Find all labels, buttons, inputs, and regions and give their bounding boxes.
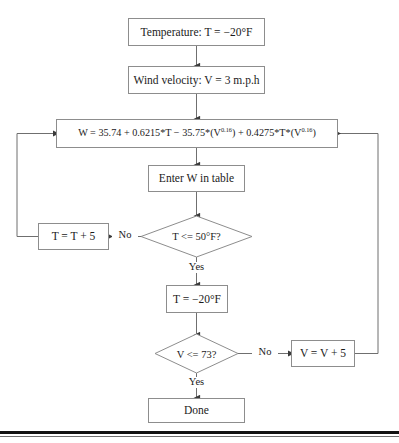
edge-increment-v-feedback xyxy=(338,134,378,354)
edge-label-temp-yes: Yes xyxy=(183,262,210,273)
page-rule-thick xyxy=(0,431,399,434)
node-increment-v[interactable]: V = V + 5 xyxy=(291,340,355,367)
edge-label-velocity-yes: Yes xyxy=(183,377,210,388)
formula-exponent-1: 0.16 xyxy=(221,126,232,133)
node-wind-velocity[interactable]: Wind velocity: V = 3 m.p.h xyxy=(128,66,265,94)
formula-middle: ) + 0.4275*T*(V xyxy=(232,127,301,138)
formula-suffix: ) xyxy=(312,127,315,138)
node-velocity-decision-label: V <= 73? xyxy=(177,349,217,360)
node-formula-label: W = 35.74 + 0.6215*T − 35.75*(V0.16) + 0… xyxy=(78,128,316,139)
node-increment-v-label: V = V + 5 xyxy=(300,347,346,359)
node-increment-t[interactable]: T = T + 5 xyxy=(38,223,109,250)
node-temp-decision-label: T <= 50°F? xyxy=(172,231,221,242)
node-reset-t[interactable]: T = −20°F xyxy=(166,285,228,313)
edge-label-temp-no: No xyxy=(112,230,138,241)
node-done[interactable]: Done xyxy=(148,398,245,423)
edge-increment-t-feedback xyxy=(17,134,56,237)
formula-prefix: W = 35.74 + 0.6215*T − 35.75*(V xyxy=(78,127,221,138)
page-rule-thin xyxy=(0,436,399,437)
flowchart-canvas: Temperature: T = −20°F Wind velocity: V … xyxy=(0,0,399,443)
node-velocity-decision[interactable]: V <= 73? xyxy=(161,344,232,364)
node-enter-table[interactable]: Enter W in table xyxy=(148,165,245,192)
node-done-label: Done xyxy=(184,404,209,416)
edge-label-velocity-no: No xyxy=(252,347,278,358)
node-formula[interactable]: W = 35.74 + 0.6215*T − 35.75*(V0.16) + 0… xyxy=(56,119,338,148)
node-temperature-label: Temperature: T = −20°F xyxy=(141,26,253,38)
formula-exponent-2: 0.16 xyxy=(301,126,312,133)
node-enter-table-label: Enter W in table xyxy=(159,172,234,184)
node-wind-velocity-label: Wind velocity: V = 3 m.p.h xyxy=(133,74,259,86)
node-temperature[interactable]: Temperature: T = −20°F xyxy=(128,18,265,46)
node-reset-t-label: T = −20°F xyxy=(173,293,221,305)
node-temp-decision[interactable]: T <= 50°F? xyxy=(152,226,241,247)
node-increment-t-label: T = T + 5 xyxy=(52,230,96,242)
